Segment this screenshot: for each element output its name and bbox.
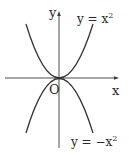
y-axis-label: y	[49, 6, 56, 19]
curve-y-equals-x-squared	[26, 24, 93, 78]
y-axis-arrow-icon	[57, 11, 61, 16]
x-axis-arrow-icon	[114, 76, 119, 80]
x-axis-label: x	[112, 84, 119, 97]
upper-curve-label-base: y = x	[77, 12, 108, 26]
lower-curve-label-base: y = −x	[71, 135, 112, 149]
upper-curve-label-exponent: 2	[108, 11, 113, 20]
origin-label: O	[49, 83, 60, 96]
lower-curve-label-exponent: 2	[112, 134, 117, 143]
upper-curve-label: y = x2	[77, 12, 113, 25]
lower-curve-label: y = −x2	[71, 135, 117, 148]
